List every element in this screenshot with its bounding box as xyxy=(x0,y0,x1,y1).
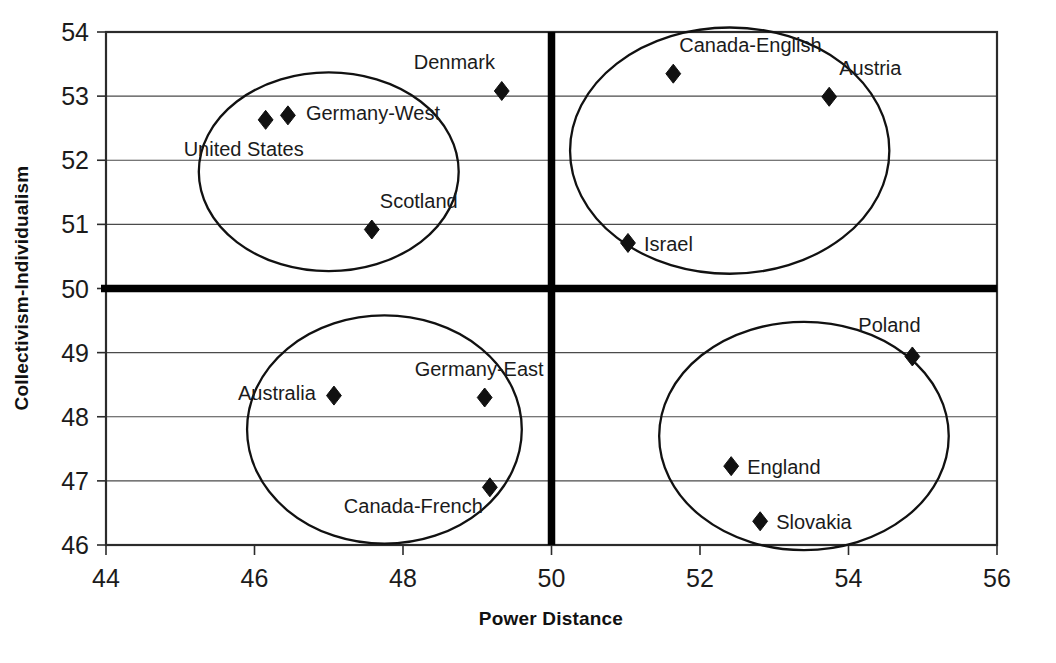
data-point-label: Australia xyxy=(238,382,317,404)
x-axis-title: Power Distance xyxy=(479,608,623,629)
x-tick-label-50: 50 xyxy=(538,564,566,592)
y-tick-label-46: 46 xyxy=(61,531,89,559)
y-tick-label-51: 51 xyxy=(61,210,89,238)
y-tick-label-53: 53 xyxy=(61,82,89,110)
y-tick-label-50: 50 xyxy=(61,275,89,303)
y-tick-label-49: 49 xyxy=(61,339,89,367)
data-point-label: Canada-French xyxy=(344,495,483,517)
y-tick-label-52: 52 xyxy=(61,146,89,174)
chart-container: United StatesGermany-WestDenmarkScotland… xyxy=(0,0,1056,663)
data-point-label: Germany-West xyxy=(306,102,441,124)
x-tick-label-46: 46 xyxy=(241,564,269,592)
data-point-label: England xyxy=(747,456,820,478)
data-point-label: Scotland xyxy=(380,190,458,212)
data-point-label: Germany-East xyxy=(415,358,544,380)
x-tick-label-56: 56 xyxy=(983,564,1011,592)
x-tick-label-52: 52 xyxy=(686,564,714,592)
y-tick-label-54: 54 xyxy=(61,18,89,46)
data-point-label: United States xyxy=(184,138,304,160)
x-tick-label-54: 54 xyxy=(835,564,863,592)
y-tick-label-48: 48 xyxy=(61,403,89,431)
y-axis-title: Collectivism-Individualism xyxy=(11,166,32,411)
y-axis-tick-labels: 464748495051525354 xyxy=(61,18,89,559)
data-point-label: Denmark xyxy=(414,51,496,73)
data-point-label: Slovakia xyxy=(776,511,852,533)
x-tick-label-44: 44 xyxy=(92,564,120,592)
data-point-label: Canada-English xyxy=(679,34,821,56)
data-point-label: Israel xyxy=(644,233,693,255)
data-point-label: Austria xyxy=(839,57,902,79)
data-point-label: Poland xyxy=(858,314,920,336)
x-tick-label-48: 48 xyxy=(389,564,417,592)
scatter-plot: United StatesGermany-WestDenmarkScotland… xyxy=(0,0,1056,663)
y-tick-label-47: 47 xyxy=(61,467,89,495)
